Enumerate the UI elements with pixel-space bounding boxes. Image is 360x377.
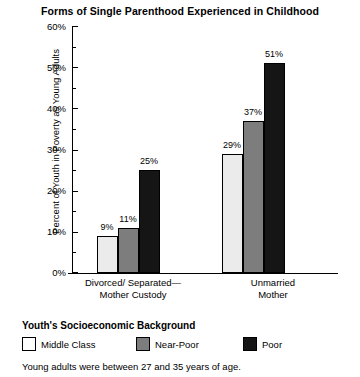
x-category-label-unmarried-line2: Mother: [188, 289, 358, 301]
chart-footnote: Young adults were between 27 and 35 year…: [22, 361, 241, 372]
bar-value-divorced-poor: 25%: [129, 157, 169, 166]
y-tick-25: [73, 170, 76, 171]
y-tick-60: [73, 26, 78, 27]
legend-swatch-near-poor-icon: [136, 337, 150, 351]
chart-title: Forms of Single Parenthood Experienced i…: [0, 5, 360, 17]
legend-label-poor: Poor: [262, 339, 282, 350]
y-tick-label-0: 0%: [6, 268, 66, 277]
legend-swatch-middle-class-icon: [22, 337, 36, 351]
y-tick-label-20: 20%: [6, 186, 66, 195]
x-axis-line: [68, 273, 338, 274]
bar-value-unmarried-poor: 51%: [254, 50, 294, 59]
bar-unmarried-near-poor[interactable]: [243, 121, 264, 273]
bar-divorced-middle-class[interactable]: [97, 236, 118, 273]
y-tick-label-50: 50%: [6, 63, 66, 72]
bar-unmarried-middle-class[interactable]: [222, 154, 243, 273]
y-tick-10: [73, 232, 78, 233]
bar-unmarried-poor[interactable]: [264, 63, 285, 273]
plot-area: 9% 11% 25% 29% 37% 51%: [72, 26, 338, 273]
legend-label-near-poor: Near-Poor: [155, 339, 199, 350]
legend-title: Youth's Socioeconomic Background: [22, 320, 195, 331]
y-tick-30: [73, 150, 78, 151]
y-tick-50: [73, 67, 78, 68]
y-tick-15: [73, 211, 76, 212]
legend-swatch-poor-icon: [243, 337, 257, 351]
y-tick-5: [73, 252, 76, 253]
y-tick-20: [73, 191, 78, 192]
y-tick-0: [73, 272, 78, 273]
x-category-label-unmarried-line1: Unmarried: [188, 277, 358, 289]
y-tick-label-40: 40%: [6, 104, 66, 113]
y-tick-55: [73, 47, 76, 48]
y-tick-40: [73, 108, 78, 109]
y-tick-label-60: 60%: [6, 22, 66, 31]
y-tick-45: [73, 88, 76, 89]
y-tick-label-30: 30%: [6, 145, 66, 154]
x-category-label-unmarried: Unmarried Mother: [188, 277, 358, 300]
bar-divorced-near-poor[interactable]: [118, 228, 139, 273]
y-tick-35: [73, 129, 76, 130]
y-tick-label-10: 10%: [6, 227, 66, 236]
legend-label-middle-class: Middle Class: [41, 339, 95, 350]
bar-divorced-poor[interactable]: [139, 170, 160, 273]
